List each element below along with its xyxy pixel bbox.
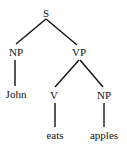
node-np2: NP — [97, 90, 111, 101]
node-s: S — [43, 8, 49, 19]
edge-s-vp — [46, 19, 77, 45]
node-vp: VP — [72, 47, 86, 58]
node-john: John — [6, 89, 27, 100]
edge-s-np1 — [16, 19, 46, 44]
node-apples: apples — [90, 130, 118, 141]
edge-vp-v — [55, 60, 79, 87]
node-eats: eats — [46, 130, 63, 141]
node-np1: NP — [9, 47, 23, 58]
edge-vp-np2 — [80, 60, 103, 87]
node-v: V — [50, 90, 58, 101]
